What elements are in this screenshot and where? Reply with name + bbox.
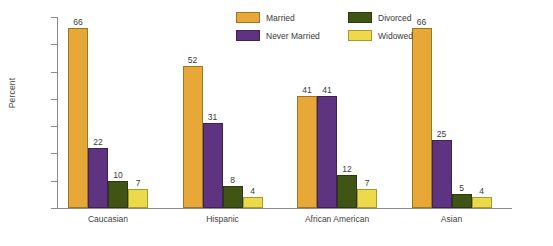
bar-value-label: 7 xyxy=(365,178,370,188)
bar-value-label: 10 xyxy=(113,170,122,180)
bar: 31 xyxy=(203,123,223,208)
legend-swatch-icon xyxy=(236,30,260,41)
x-axis-label-african-american: African American xyxy=(277,214,397,224)
y-tick: 70 xyxy=(0,17,57,18)
legend-label: Married xyxy=(266,13,295,23)
y-tick: 30 xyxy=(0,126,57,127)
bar: 7 xyxy=(128,189,148,208)
bar: 10 xyxy=(108,181,128,208)
bar: 41 xyxy=(317,96,337,208)
bar-value-label: 25 xyxy=(437,129,446,139)
bar: 66 xyxy=(68,28,88,208)
bar-group: 4141127 xyxy=(297,17,377,208)
bar-value-label: 4 xyxy=(250,186,255,196)
bar: 66 xyxy=(412,28,432,208)
bar-value-label: 41 xyxy=(322,85,331,95)
bar-value-label: 5 xyxy=(459,183,464,193)
bar: 4 xyxy=(243,197,263,208)
y-tick: 10 xyxy=(0,181,57,182)
bar-value-label: 31 xyxy=(208,112,217,122)
bar-group: 523184 xyxy=(183,17,263,208)
x-axis-label-asian: Asian xyxy=(392,214,512,224)
bar: 52 xyxy=(183,66,203,208)
bar-value-label: 12 xyxy=(342,164,351,174)
bar-value-label: 66 xyxy=(73,17,82,27)
y-tick: 50 xyxy=(0,72,57,73)
y-tick-mark xyxy=(51,208,57,209)
y-tick: 0 xyxy=(0,208,57,209)
bar-value-label: 8 xyxy=(230,175,235,185)
legend-swatch-icon xyxy=(236,12,260,23)
bar-value-label: 52 xyxy=(188,55,197,65)
bar: 7 xyxy=(357,189,377,208)
bar: 5 xyxy=(452,194,472,208)
bar: 8 xyxy=(223,186,243,208)
legend: MarriedNever MarriedDivorcedWidowed xyxy=(236,11,436,45)
legend-item-divorced[interactable]: Divorced xyxy=(348,11,412,24)
bar-value-label: 41 xyxy=(302,85,311,95)
legend-label: Widowed xyxy=(378,31,413,41)
bar: 22 xyxy=(88,148,108,208)
legend-swatch-icon xyxy=(348,30,372,41)
bar-value-label: 22 xyxy=(93,137,102,147)
bar: 25 xyxy=(432,140,452,208)
x-axis-line xyxy=(57,208,512,209)
y-tick: 40 xyxy=(0,99,57,100)
bar-group: 6622107 xyxy=(68,17,148,208)
bar: 41 xyxy=(297,96,317,208)
bar-group: 662554 xyxy=(412,17,492,208)
bar: 4 xyxy=(472,197,492,208)
x-axis-label-caucasian: Caucasian xyxy=(48,214,168,224)
legend-label: Never Married xyxy=(266,31,320,41)
bar-chart: Percent 010203040506070 6622107523184414… xyxy=(0,0,553,246)
bar-value-label: 4 xyxy=(479,186,484,196)
bar: 12 xyxy=(337,175,357,208)
y-tick: 60 xyxy=(0,44,57,45)
legend-item-widowed[interactable]: Widowed xyxy=(348,29,413,42)
legend-item-never-married[interactable]: Never Married xyxy=(236,29,320,42)
y-tick: 20 xyxy=(0,153,57,154)
x-axis-label-hispanic: Hispanic xyxy=(163,214,283,224)
bar-value-label: 7 xyxy=(136,178,141,188)
legend-label: Divorced xyxy=(378,13,412,23)
legend-swatch-icon xyxy=(348,12,372,23)
legend-item-married[interactable]: Married xyxy=(236,11,295,24)
plot-area: 66221075231844141127662554 xyxy=(57,17,512,208)
